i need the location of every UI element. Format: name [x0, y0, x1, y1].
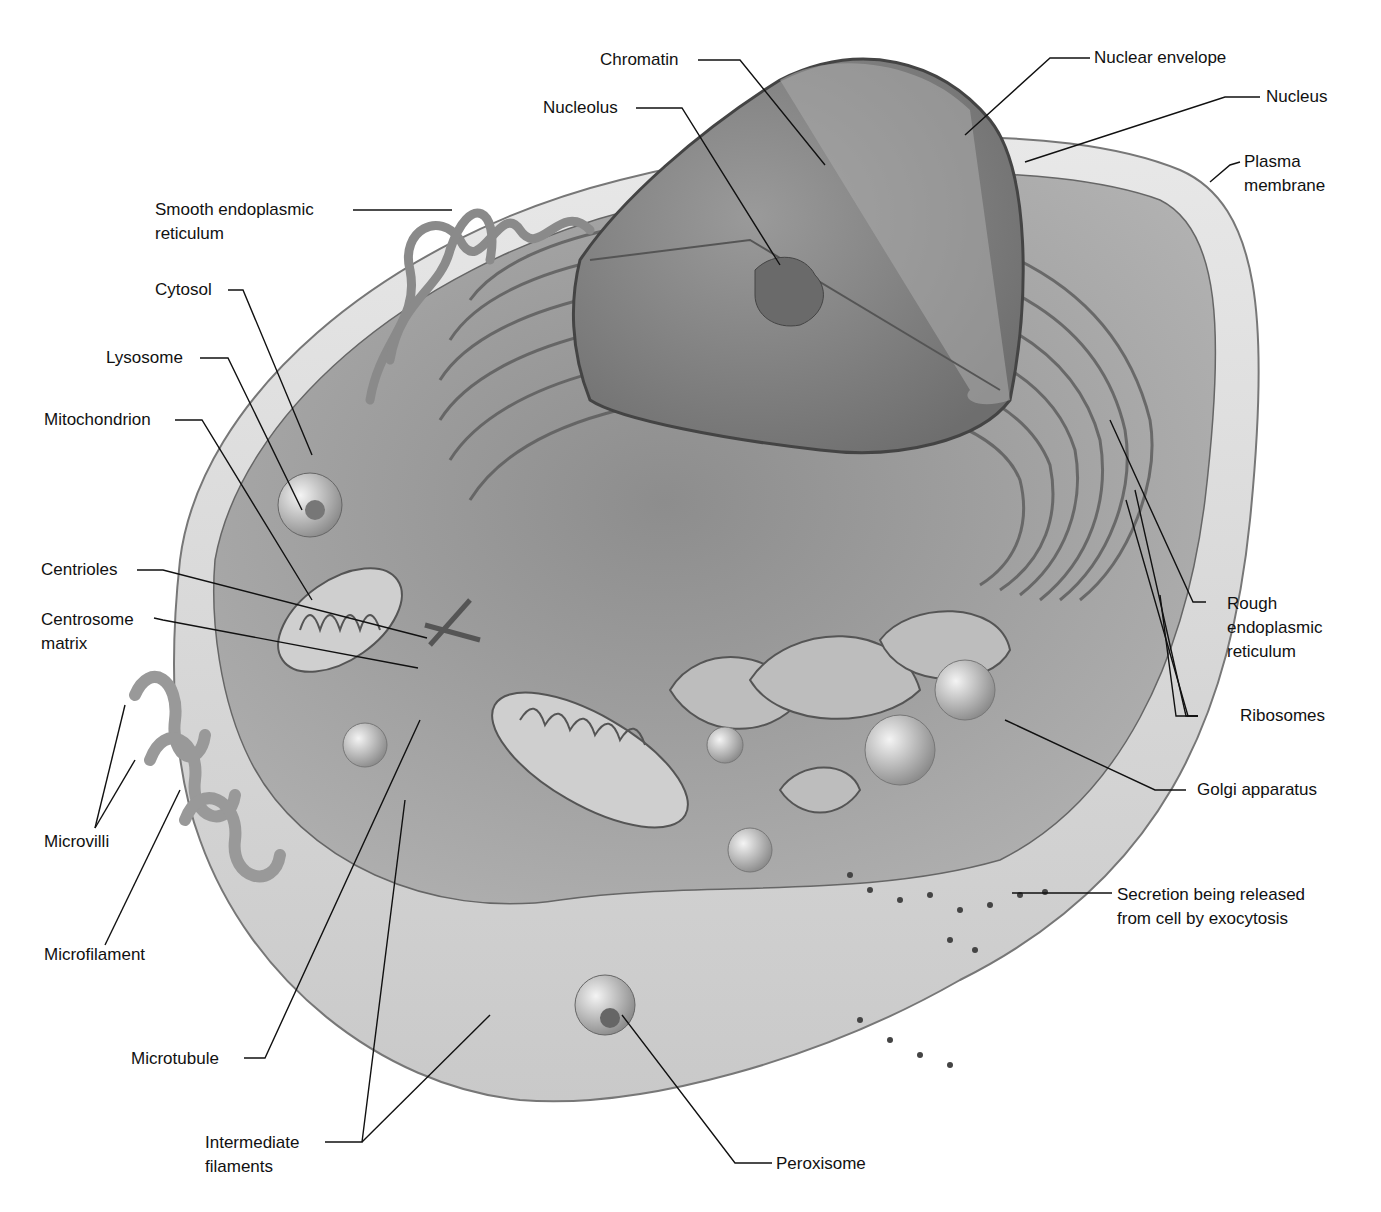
label-centrosome-matrix: Centrosome matrix	[41, 608, 134, 656]
label-line: membrane	[1244, 174, 1325, 198]
label-secretion: Secretion being released from cell by ex…	[1117, 883, 1305, 931]
label-line: Rough	[1227, 592, 1322, 616]
label-peroxisome: Peroxisome	[776, 1152, 866, 1176]
cell-illustration	[0, 0, 1381, 1212]
label-centrioles: Centrioles	[41, 558, 118, 582]
label-line: filaments	[205, 1155, 300, 1179]
label-nuclear-envelope: Nuclear envelope	[1094, 46, 1226, 70]
peroxisome-shape	[575, 975, 635, 1035]
label-line: Smooth endoplasmic	[155, 198, 314, 222]
label-microfilament: Microfilament	[44, 943, 145, 967]
label-line: from cell by exocytosis	[1117, 907, 1305, 931]
label-line: matrix	[41, 632, 134, 656]
label-microtubule: Microtubule	[131, 1047, 219, 1071]
label-line: Intermediate	[205, 1131, 300, 1155]
label-line: reticulum	[155, 222, 314, 246]
label-line: endoplasmic	[1227, 616, 1322, 640]
label-line: Centrosome	[41, 608, 134, 632]
label-rough-er: Rough endoplasmic reticulum	[1227, 592, 1322, 664]
label-line: Plasma	[1244, 150, 1325, 174]
label-microvilli: Microvilli	[44, 830, 109, 854]
label-lysosome: Lysosome	[106, 346, 183, 370]
label-plasma-membrane: Plasma membrane	[1244, 150, 1325, 198]
nucleus-shape	[573, 59, 1023, 452]
label-nucleolus: Nucleolus	[543, 96, 618, 120]
label-mitochondrion: Mitochondrion	[44, 408, 151, 432]
label-ribosomes: Ribosomes	[1240, 704, 1325, 728]
lysosome-shape	[278, 473, 342, 537]
label-cytosol: Cytosol	[155, 278, 212, 302]
label-line: Secretion being released	[1117, 883, 1305, 907]
label-golgi-apparatus: Golgi apparatus	[1197, 778, 1317, 802]
label-nucleus: Nucleus	[1266, 85, 1327, 109]
label-smooth-er: Smooth endoplasmic reticulum	[155, 198, 314, 246]
label-chromatin: Chromatin	[600, 48, 678, 72]
label-intermediate-filaments: Intermediate filaments	[205, 1131, 300, 1179]
label-line: reticulum	[1227, 640, 1322, 664]
